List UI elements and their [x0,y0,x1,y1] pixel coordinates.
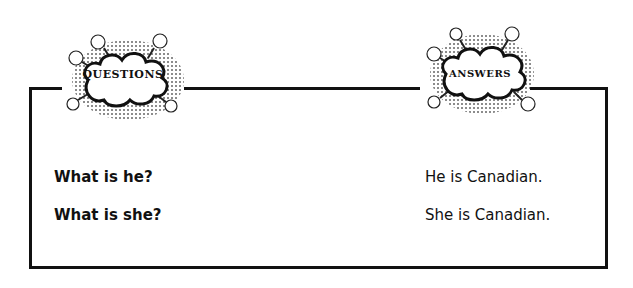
answers-header-label: ANSWERS [420,68,540,79]
question-text: What is she? [54,206,162,224]
answer-text: He is Canadian. [425,168,543,186]
question-text: What is he? [54,168,153,186]
questions-header-label: QUESTIONS [58,68,188,81]
answer-text: She is Canadian. [425,206,550,224]
answers-header-cloud: ANSWERS [420,22,540,118]
questions-header-cloud: QUESTIONS [58,28,188,124]
